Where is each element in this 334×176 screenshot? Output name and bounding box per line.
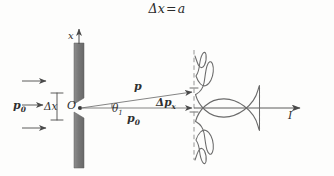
label-slit-width: Δx bbox=[44, 101, 58, 112]
barrier-plate-lower bbox=[74, 112, 84, 168]
label-forward-momentum: p0 bbox=[127, 113, 140, 127]
label-origin: O bbox=[67, 100, 76, 111]
diffraction-figure: Δx=a bbox=[0, 0, 334, 176]
label-momentum-spread: Δpx bbox=[156, 97, 176, 110]
barrier-plate-upper bbox=[74, 43, 84, 104]
label-x-axis: x bbox=[68, 31, 74, 41]
label-angle-theta1: θ1 bbox=[112, 103, 123, 116]
label-incoming-momentum: p0 bbox=[13, 100, 26, 114]
label-scattered-momentum: p bbox=[134, 81, 142, 92]
label-intensity: I bbox=[288, 110, 292, 121]
diagram-canvas bbox=[0, 0, 334, 176]
